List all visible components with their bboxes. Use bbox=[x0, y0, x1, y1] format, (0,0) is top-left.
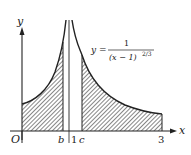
x-axis-label: x bbox=[179, 124, 186, 137]
equation-lhs: y = bbox=[90, 45, 107, 55]
improper-integral-diagram: y x O b 1 c 3 y = 1 (x − 1) 2/3 bbox=[0, 0, 191, 155]
origin-label: O bbox=[11, 133, 20, 146]
equation-exponent: 2/3 bbox=[142, 50, 152, 57]
shaded-region-left bbox=[22, 42, 63, 131]
tick-label-3: 3 bbox=[158, 134, 164, 145]
tick-label-1: 1 bbox=[71, 134, 77, 145]
y-axis-label: y bbox=[16, 15, 24, 28]
x-axis-arrow-icon bbox=[170, 129, 177, 134]
tick-label-c: c bbox=[79, 134, 85, 145]
equation-numerator: 1 bbox=[124, 39, 129, 48]
shaded-region-right bbox=[82, 55, 162, 131]
equation-denominator: (x − 1) bbox=[109, 53, 137, 62]
function-equation: y = 1 (x − 1) 2/3 bbox=[90, 39, 154, 62]
tick-label-b: b bbox=[58, 134, 64, 145]
y-axis-arrow-icon bbox=[20, 27, 25, 35]
